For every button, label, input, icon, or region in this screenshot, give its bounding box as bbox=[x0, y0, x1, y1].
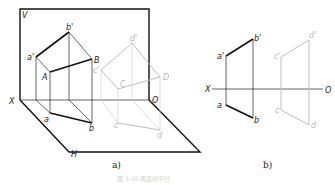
label-c: c bbox=[114, 121, 119, 130]
figure-b: X O a' b' a b c' d' c d b) bbox=[204, 31, 331, 170]
label-axis-x: X bbox=[8, 97, 15, 106]
projection-ab bbox=[50, 113, 92, 123]
label-C: C bbox=[120, 80, 126, 89]
figure-caption: 图 3-10 两直线平行 bbox=[117, 175, 170, 183]
label-h-plane: H bbox=[71, 150, 77, 159]
line-AB bbox=[50, 59, 92, 72]
label-a-prime: a' bbox=[27, 53, 34, 62]
label-b-prime-b: b' bbox=[254, 34, 261, 43]
label-axis-o: O bbox=[152, 96, 158, 105]
label-d-b: d bbox=[311, 121, 317, 130]
projection-a-b-prime bbox=[36, 32, 69, 57]
label-a-prime-b: a' bbox=[217, 52, 224, 61]
label-B: B bbox=[94, 56, 100, 65]
projector-b-prime-B bbox=[69, 32, 92, 59]
caption-a: a) bbox=[112, 160, 121, 170]
h-projector-a bbox=[36, 100, 50, 113]
label-b: b bbox=[89, 124, 94, 133]
projector-d-prime-D bbox=[132, 43, 160, 77]
label-a-b: a bbox=[217, 101, 222, 110]
label-c-prime-b: c' bbox=[274, 52, 281, 61]
caption-b: b) bbox=[263, 160, 272, 170]
label-c-b: c bbox=[275, 106, 280, 115]
label-a: a bbox=[44, 115, 49, 124]
projection-c-d-prime bbox=[101, 43, 132, 70]
h-projector-c bbox=[101, 100, 118, 123]
label-b-b: b bbox=[254, 116, 259, 125]
label-b-prime: b' bbox=[66, 23, 73, 32]
diagram-canvas: V H X O a' b' A B a b c' d' C D c d a) X… bbox=[0, 0, 335, 185]
label-d-prime-b: d' bbox=[309, 31, 316, 40]
projection-diagram: V H X O a' b' A B a b c' d' C D c d a) X… bbox=[0, 0, 335, 185]
label-d: d bbox=[157, 131, 163, 140]
projector-a-prime-A bbox=[36, 57, 50, 72]
projection-cd-b bbox=[281, 110, 309, 125]
label-d-prime: d' bbox=[130, 34, 137, 43]
projector-c-prime-C bbox=[101, 70, 118, 89]
projection-a-b-prime-b bbox=[226, 39, 253, 56]
label-axis-o-b: O bbox=[325, 86, 331, 95]
projection-cd bbox=[118, 123, 160, 130]
label-A: A bbox=[41, 73, 47, 82]
figure-a: V H X O a' b' A B a b c' d' C D c d a) bbox=[8, 9, 200, 170]
label-D: D bbox=[163, 73, 169, 82]
label-axis-x-b: X bbox=[204, 85, 211, 94]
projection-c-d-prime-b bbox=[281, 40, 309, 57]
label-c-prime: c' bbox=[93, 66, 100, 75]
label-v-plane: V bbox=[22, 11, 28, 20]
h-plane bbox=[20, 100, 200, 152]
projection-ab-b bbox=[226, 105, 253, 118]
line-cd-group bbox=[101, 43, 160, 130]
